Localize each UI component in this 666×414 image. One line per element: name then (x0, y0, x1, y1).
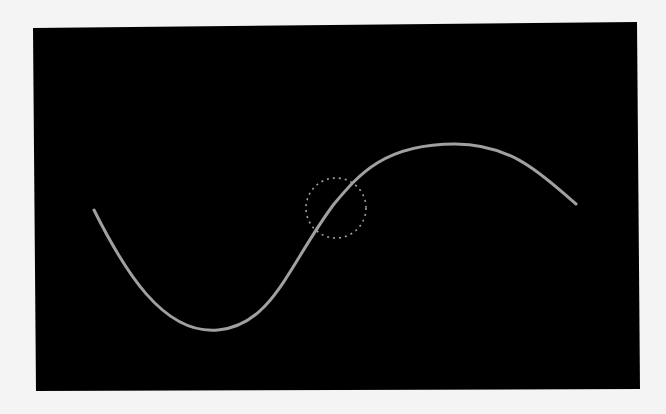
drawing-canvas[interactable] (0, 0, 666, 414)
canvas-svg[interactable] (0, 0, 666, 414)
black-drawing-panel[interactable] (33, 22, 640, 391)
